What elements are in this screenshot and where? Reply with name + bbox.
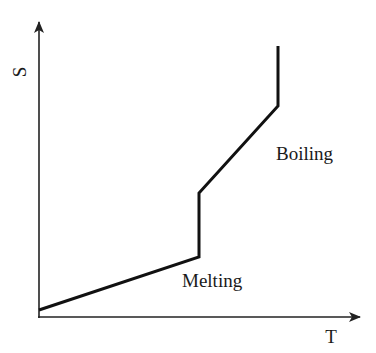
x-axis-label: T [325,326,337,347]
melting-label: Melting [182,270,243,291]
entropy-temperature-diagram: S T Melting Boiling [0,0,376,353]
y-axis-label: S [9,67,30,78]
boiling-label: Boiling [276,143,334,164]
